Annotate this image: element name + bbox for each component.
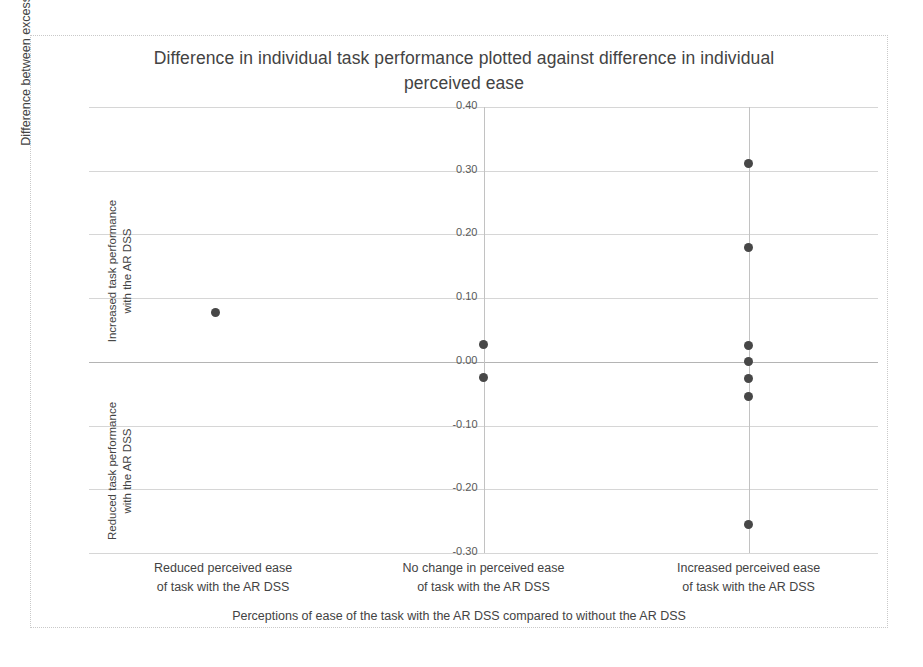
y-axis-title: Difference between excess cost with and … <box>19 0 33 186</box>
y-tick-label: -0.10 <box>432 418 478 430</box>
category-label-0: Reduced perceived easeof task with the A… <box>108 559 338 597</box>
y-axis-annotation-reduced-line2: with the AR DSS <box>121 429 133 514</box>
category-label-line2: of task with the AR DSS <box>417 580 550 594</box>
data-point[interactable] <box>744 357 753 366</box>
category-label-line2: of task with the AR DSS <box>157 580 290 594</box>
data-point[interactable] <box>744 392 753 401</box>
y-tick-label: 0.20 <box>432 226 478 238</box>
category-label-line1: No change in perceived ease <box>403 561 565 575</box>
y-tick-label: 0.30 <box>432 163 478 175</box>
y-tick-label: 0.00 <box>432 354 478 366</box>
category-label-line2: of task with the AR DSS <box>682 580 815 594</box>
category-divider <box>484 107 485 553</box>
data-point[interactable] <box>744 243 753 252</box>
plot-area: 0.400.300.200.100.00-0.10-0.20-0.30 <box>89 107 878 553</box>
gridline <box>89 553 878 554</box>
chart-frame: Difference in individual task performanc… <box>30 35 888 628</box>
data-point[interactable] <box>744 520 753 529</box>
y-tick-label: 0.40 <box>432 99 478 111</box>
y-axis-annotation-increased-line1: Increased task performance <box>106 200 118 343</box>
chart-title: Difference in individual task performanc… <box>149 46 779 96</box>
category-label-1: No change in perceived easeof task with … <box>369 559 599 597</box>
y-axis-annotation-increased-line2: with the AR DSS <box>121 229 133 314</box>
category-divider <box>749 107 750 553</box>
category-label-line1: Increased perceived ease <box>677 561 820 575</box>
y-tick-label: -0.20 <box>432 481 478 493</box>
category-label-2: Increased perceived easeof task with the… <box>634 559 864 597</box>
data-point[interactable] <box>744 374 753 383</box>
data-point[interactable] <box>479 373 488 382</box>
data-point[interactable] <box>211 308 220 317</box>
y-axis-annotation-reduced-line1: Reduced task performance <box>106 402 118 540</box>
data-point[interactable] <box>744 341 753 350</box>
y-axis-annotation-reduced: Reduced task performance with the AR DSS <box>105 371 135 571</box>
y-axis-annotation-increased: Increased task performance with the AR D… <box>105 171 135 371</box>
data-point[interactable] <box>479 340 488 349</box>
data-point[interactable] <box>744 159 753 168</box>
category-label-line1: Reduced perceived ease <box>154 561 292 575</box>
y-tick-label: 0.10 <box>432 290 478 302</box>
y-tick-label: -0.30 <box>432 545 478 557</box>
x-axis-title: Perceptions of ease of the task with the… <box>31 609 887 623</box>
